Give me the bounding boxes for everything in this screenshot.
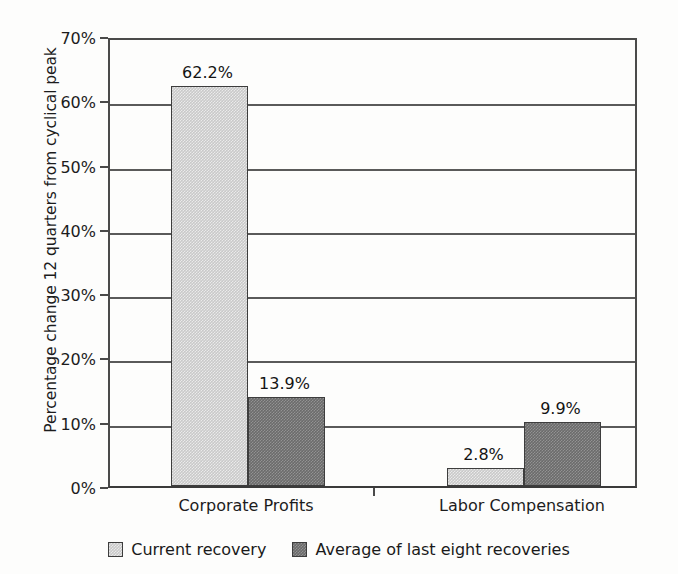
- legend-item-label: Current recovery: [131, 540, 266, 559]
- y-axis-tick-mark: [100, 230, 108, 232]
- legend-item[interactable]: Average of last eight recoveries: [292, 540, 569, 559]
- y-axis-tick-label: 70%: [26, 29, 96, 48]
- x-axis-category-label: Labor Compensation: [439, 496, 605, 515]
- y-axis-tick-mark: [100, 358, 108, 360]
- legend-swatch-icon: [108, 542, 123, 557]
- bar-value-label: 2.8%: [463, 445, 504, 464]
- legend-item-label: Average of last eight recoveries: [315, 540, 569, 559]
- y-axis-tick-label: 20%: [26, 350, 96, 369]
- y-axis-tick-label: 10%: [26, 414, 96, 433]
- legend-swatch-icon: [292, 542, 307, 557]
- y-axis-tick-mark: [100, 37, 108, 39]
- y-axis-tick-mark: [100, 101, 108, 103]
- y-axis-tick-label: 0%: [26, 479, 96, 498]
- bar-value-label: 13.9%: [259, 374, 310, 393]
- legend-item[interactable]: Current recovery: [108, 540, 266, 559]
- x-axis-tick-mark: [373, 488, 375, 496]
- bar[interactable]: [171, 86, 248, 486]
- y-axis-tick-label: 40%: [26, 221, 96, 240]
- chart-figure: Percentage change 12 quarters from cycli…: [0, 0, 678, 574]
- y-axis-tick-label: 60%: [26, 93, 96, 112]
- y-axis-tick-mark: [100, 487, 108, 489]
- bar[interactable]: [447, 468, 524, 486]
- bar-value-label: 9.9%: [540, 399, 581, 418]
- x-axis-category-label: Corporate Profits: [178, 496, 313, 515]
- y-axis-tick-mark: [100, 166, 108, 168]
- bar[interactable]: [524, 422, 601, 486]
- y-axis-tick-label: 50%: [26, 157, 96, 176]
- bar-value-label: 62.2%: [182, 63, 233, 82]
- chart-legend: Current recoveryAverage of last eight re…: [0, 540, 678, 559]
- plot-area: [108, 38, 637, 488]
- bar[interactable]: [248, 397, 325, 486]
- y-axis-tick-mark: [100, 423, 108, 425]
- y-axis-tick-mark: [100, 294, 108, 296]
- y-axis-tick-label: 30%: [26, 286, 96, 305]
